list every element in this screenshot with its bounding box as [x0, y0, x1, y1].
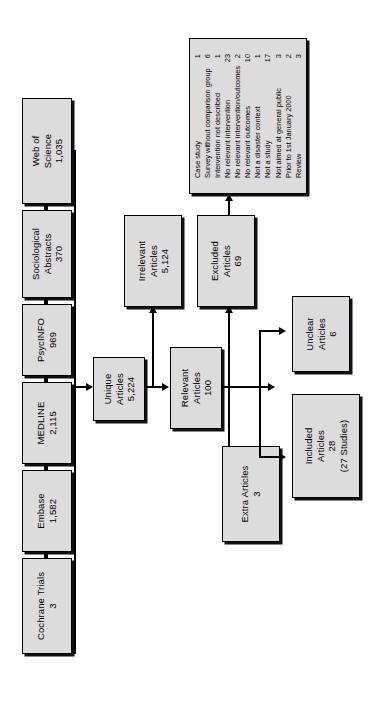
source-label-embase: Embase 1,582 [35, 493, 58, 528]
source-label-psycinfo: PsycINFO 969 [35, 318, 58, 362]
exclusion-reason-row: Review 3 [293, 54, 303, 178]
exclusion-reason-row: Not a study 17 [263, 54, 273, 178]
source-label-medline: MEDLINE 2,115 [35, 402, 58, 445]
stage-count: 28 [326, 420, 338, 472]
source-box-web-of-science: Web of Science 1,035 [22, 98, 72, 204]
exclusion-reason-row: Prior to 1st January 2000 2 [283, 54, 293, 178]
stage-line-1: Relevant [179, 369, 191, 407]
connector-socabs-psycinfo [44, 298, 48, 305]
stage-box-unclear-articles: Unclear Articles 6 [292, 296, 350, 372]
source-line-1: Cochrane Trials [35, 572, 47, 640]
source-count: 370 [53, 228, 65, 280]
source-line-1: MEDLINE [35, 402, 47, 445]
stage-box-relevant-articles: Relevant Articles 100 [170, 347, 222, 429]
stage-label-unique-articles: Unique Articles 5,224 [102, 373, 137, 405]
exclusion-reason-row: No relevant outcomes 10 [243, 54, 253, 178]
source-box-cochrane-trials: Cochrane Trials 3 [22, 558, 72, 654]
exclusion-reason-row: Not aimed at general public 3 [273, 54, 283, 178]
exclusion-reason-count: 1 [213, 54, 223, 70]
branch-to-included-line [259, 456, 281, 458]
excluded-to-reasons-arrowhead [225, 194, 233, 201]
source-box-sociological-abstracts: Sociological Abstracts 370 [22, 210, 72, 298]
stage-line-2: Articles [113, 373, 125, 405]
stage-label-irrelevant-articles: Irrelevant Articles 5,124 [136, 241, 171, 282]
source-to-unique-arrowhead [86, 383, 93, 391]
source-line-1: PsycINFO [35, 318, 47, 362]
exclusion-reason-row: Not a disaster context 1 [253, 54, 263, 178]
exclusion-reason-count: 10 [243, 54, 253, 70]
stage-label-relevant-articles: Relevant Articles 100 [179, 369, 214, 407]
stage-count: 5,224 [125, 373, 137, 405]
exclusion-reason-count: 1 [253, 54, 263, 70]
exclusion-reasons-box: Case study 1 Survey without comparison g… [189, 38, 307, 194]
stage-count: 6 [327, 317, 339, 350]
stage-line-2: Articles [314, 420, 326, 472]
exclusion-reason-label: Not a disaster context [253, 70, 263, 178]
exclusion-reason-count: 6 [203, 54, 213, 70]
stage-line-2: Articles [315, 317, 327, 350]
source-count: 2,115 [47, 402, 59, 445]
source-line-1: Sociological [30, 228, 42, 280]
branch-to-unclear-line [259, 330, 281, 332]
stage-box-extra-articles: Extra Articles 3 [222, 446, 280, 542]
stage-label-extra-articles: Extra Articles 3 [239, 466, 262, 523]
exclusion-reason-count: 1 [193, 54, 203, 70]
exclusion-reason-row: No relevant intervention/outcomes 2 [233, 54, 243, 178]
stage-line-1: Unclear [304, 317, 316, 350]
exclusion-reason-label: No relevant intervention/outcomes [233, 70, 243, 178]
stage-line-1: Extra Articles [239, 466, 251, 523]
stage-note: (27 Studies) [338, 420, 350, 472]
stage-line-1: Excluded [209, 241, 221, 281]
source-box-medline: MEDLINE 2,115 [22, 382, 72, 464]
stage-count: 5,124 [159, 241, 171, 282]
stage-line-1: Included [303, 420, 315, 472]
exclusion-reasons-list: Case study 1 Survey without comparison g… [193, 54, 304, 178]
excluded-to-reasons-vertical [228, 200, 230, 216]
connector-wos-socabs [44, 204, 48, 211]
stage-count: 3 [251, 466, 263, 523]
exclusion-reason-row: No relevant intervention 23 [223, 54, 233, 178]
exclusion-reason-label: Case study [193, 70, 203, 178]
exclusion-reason-label: Prior to 1st January 2000 [283, 70, 293, 178]
stage-line-2: Articles [190, 369, 202, 407]
connector-psycinfo-medline [44, 376, 48, 383]
connector-embase-cochrane [44, 552, 48, 559]
stage-count: 100 [202, 369, 214, 407]
exclusion-reason-label: Not aimed at general public [273, 70, 283, 178]
stage-line-1: Unique [102, 373, 114, 405]
source-count: 1,035 [53, 134, 65, 169]
exclusion-reason-count: 23 [223, 54, 233, 70]
source-box-embase: Embase 1,582 [22, 470, 72, 552]
stage-label-unclear-articles: Unclear Articles 6 [304, 317, 339, 350]
relevant-to-excluded-arrowhead [225, 306, 233, 313]
exclusion-reason-label: Not a study [263, 70, 273, 178]
source-line-2: Science [41, 134, 53, 169]
stage-box-irrelevant-articles: Irrelevant Articles 5,124 [124, 215, 182, 307]
stage-label-included-articles: Included Articles 28 (27 Studies) [303, 420, 349, 472]
source-line-1: Web of [30, 134, 42, 169]
source-count: 3 [47, 572, 59, 640]
exclusion-reason-count: 3 [293, 54, 303, 70]
stage-line-2: Articles [147, 241, 159, 282]
exclusion-reason-count: 3 [273, 54, 283, 70]
stage-box-unique-articles: Unique Articles 5,224 [93, 357, 145, 421]
stage-label-excluded-articles: Excluded Articles 69 [209, 241, 244, 281]
branch-to-unclear-arrowhead [279, 327, 286, 335]
stage-box-included-articles: Included Articles 28 (27 Studies) [292, 394, 360, 498]
exclusion-reason-label: No relevant intervention [223, 70, 233, 178]
stage-line-1: Irrelevant [136, 241, 148, 282]
exclusion-reason-count: 2 [283, 54, 293, 70]
stage-count: 69 [232, 241, 244, 281]
right-spine-arrowhead [268, 383, 275, 391]
branch-to-included-arrowhead [279, 453, 286, 461]
source-line-2: Abstracts [41, 228, 53, 280]
source-spine-top-stub [72, 150, 76, 152]
exclusion-reason-label: Review [293, 70, 303, 178]
unique-to-irrelevant-vertical [152, 312, 154, 388]
exclusion-reason-count: 2 [233, 54, 243, 70]
unique-to-irrelevant-arrowhead [149, 306, 157, 313]
exclusion-reason-row: Survey without comparison group 6 [203, 54, 213, 178]
source-spine-vertical [74, 150, 76, 654]
connector-medline-embase [44, 464, 48, 471]
source-label-sociological-abstracts: Sociological Abstracts 370 [30, 228, 65, 280]
